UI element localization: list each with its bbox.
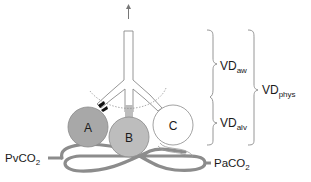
brace-phys <box>248 30 258 145</box>
brace-aw-alv <box>207 30 217 145</box>
expiration-arrow-icon <box>126 4 131 19</box>
arterial-pco2-label: PaCO2 <box>214 157 250 172</box>
airway-tree <box>97 31 162 112</box>
alveolus-c-label: C <box>169 119 178 133</box>
vd-alveolar-label: VDalv <box>220 116 247 132</box>
venous-pco2-label: PvCO2 <box>5 152 41 167</box>
alveolus-b-label: B <box>125 131 133 145</box>
alveolus-b: B <box>109 117 149 157</box>
alveolus-a: A <box>68 107 108 147</box>
diagram-svg: A B C PvCO2 PaCO2 VDaw VDalv VDphys <box>0 0 311 182</box>
alveolus-a-label: A <box>84 121 92 135</box>
alveolus-c: C <box>153 105 193 145</box>
vd-physiologic-label: VDphys <box>262 83 296 99</box>
vd-airway-label: VDaw <box>220 59 247 75</box>
dead-space-diagram: A B C PvCO2 PaCO2 VDaw VDalv VDphys <box>0 0 311 182</box>
